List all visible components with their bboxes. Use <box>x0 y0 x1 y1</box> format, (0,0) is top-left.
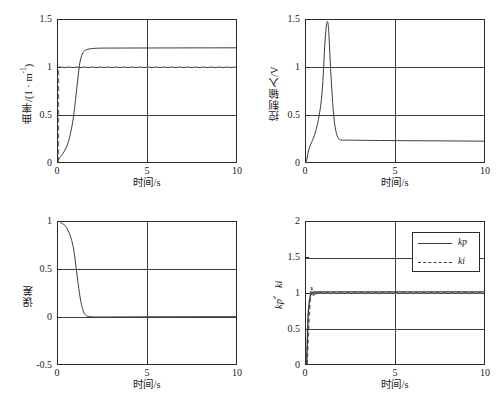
legend-line-dashed-icon <box>418 262 452 263</box>
series-control-input <box>307 21 484 161</box>
xaxis-label: 时间/s <box>57 380 237 391</box>
series-ki <box>307 287 484 364</box>
curve-group-control-input <box>306 20 484 162</box>
panel-curvature: 1.5 1 0.5 0 0 5 10 时间/s 曲率/(1 · m-1) <box>0 0 248 200</box>
series-curvature <box>58 48 236 160</box>
plot-area-curvature <box>57 19 237 163</box>
ytick-label: 1.5 <box>288 14 306 24</box>
xaxis-label: 时间/s <box>57 178 237 189</box>
legend-entry-kp: kp <box>413 233 479 253</box>
ytick-label: 0.5 <box>40 264 58 274</box>
plot-area-error <box>57 221 237 365</box>
yaxis-label: 误差 <box>24 266 35 326</box>
ytick-label: 2 <box>295 216 305 226</box>
yaxis-label-kp: kp <box>273 299 284 309</box>
panel-control-input: 1.5 1 0.5 0 0 5 10 时间/s 控制输入/V <box>248 0 496 200</box>
yaxis-label-main: 曲率/(1 · m <box>23 74 34 125</box>
xtick-label: 5 <box>393 166 398 176</box>
panel-error: 1 0.5 0 -0.5 0 5 10 时间/s 误差 <box>0 202 248 402</box>
yaxis-label-exponent: -1 <box>19 67 28 73</box>
series-reference <box>58 67 236 162</box>
yaxis-label-separator: 、 <box>273 288 284 299</box>
xtick-label: 10 <box>480 166 490 176</box>
figure-four-panel-plot: 1.5 1 0.5 0 0 5 10 时间/s 曲率/(1 · m-1) 1 <box>0 0 496 412</box>
legend-gains: kp ki <box>412 232 480 272</box>
ytick-label: 0.5 <box>40 110 58 120</box>
xtick-label: 5 <box>393 368 398 378</box>
curve-group-error <box>58 222 236 364</box>
ytick-label: 1 <box>47 216 57 226</box>
legend-entry-ki: ki <box>413 252 479 272</box>
xtick-label: 0 <box>55 166 60 176</box>
xtick-label: 5 <box>145 368 150 378</box>
yaxis-label: kp、ki <box>274 264 285 326</box>
yaxis-label: 曲率/(1 · m-1) <box>20 34 34 154</box>
xtick-label: 0 <box>303 368 308 378</box>
plot-area-gains: kp ki <box>305 221 485 365</box>
xaxis-label: 时间/s <box>305 178 485 189</box>
legend-label: ki <box>458 257 465 267</box>
ytick-label: 0.5 <box>288 110 306 120</box>
plot-area-control-input <box>305 19 485 163</box>
yaxis-label-suffix: ) <box>23 64 34 68</box>
ytick-label: 1.5 <box>40 14 58 24</box>
xtick-label: 10 <box>232 166 242 176</box>
ytick-label: 0.5 <box>288 324 306 334</box>
xtick-label: 5 <box>145 166 150 176</box>
ytick-label: 1 <box>47 62 57 72</box>
xtick-label: 0 <box>55 368 60 378</box>
ytick-label: 1.5 <box>288 252 306 262</box>
series-error <box>60 223 236 317</box>
panel-gains: kp ki 2 1.5 1 0.5 0 0 5 10 时间/s <box>248 202 496 402</box>
legend-line-solid-icon <box>418 243 452 244</box>
ytick-label: 0 <box>47 312 57 322</box>
yaxis-label-ki: ki <box>273 281 284 289</box>
xtick-label: 10 <box>232 368 242 378</box>
ytick-label: 1 <box>295 62 305 72</box>
legend-label: kp <box>458 238 467 248</box>
xaxis-label: 时间/s <box>305 380 485 391</box>
xtick-label: 10 <box>480 368 490 378</box>
xtick-label: 0 <box>303 166 308 176</box>
curve-group-curvature <box>58 20 236 162</box>
series-kp <box>307 292 484 364</box>
yaxis-label: 控制输入/V <box>270 38 281 150</box>
ytick-label: 1 <box>295 288 305 298</box>
